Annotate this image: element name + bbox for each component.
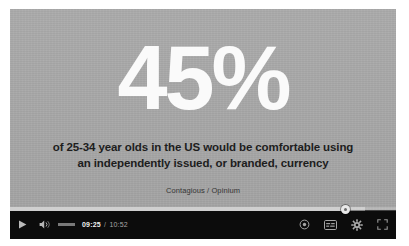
fullscreen-button[interactable] bbox=[374, 216, 391, 233]
fullscreen-icon bbox=[377, 219, 388, 230]
quality-dot-icon bbox=[299, 219, 310, 230]
page-canvas: 45% of 25-34 year olds in the US would b… bbox=[0, 0, 409, 246]
volume-button[interactable] bbox=[36, 216, 53, 233]
captions-button[interactable] bbox=[322, 216, 339, 233]
quality-button[interactable] bbox=[296, 216, 313, 233]
stat-description-line-1: of 25-34 year olds in the US would be co… bbox=[28, 140, 378, 156]
video-slide-content: 45% of 25-34 year olds in the US would b… bbox=[10, 9, 396, 207]
gear-icon bbox=[351, 219, 363, 231]
controls-right-group bbox=[296, 210, 391, 239]
subtitles-icon bbox=[324, 220, 337, 230]
time-display: 09:25 / 10:52 bbox=[82, 221, 128, 228]
stat-description-line-2: an independently issued, or branded, cur… bbox=[28, 156, 378, 172]
play-icon bbox=[17, 219, 28, 230]
current-time: 09:25 bbox=[82, 221, 101, 228]
stat-source-attribution: Contagious / Opinium bbox=[10, 186, 396, 195]
volume-icon bbox=[39, 219, 51, 230]
stat-description: of 25-34 year olds in the US would be co… bbox=[28, 140, 378, 171]
play-button[interactable] bbox=[14, 216, 31, 233]
stat-headline: 45% bbox=[10, 31, 396, 125]
controls-left-group: 09:25 / 10:52 bbox=[14, 210, 128, 239]
volume-slider[interactable] bbox=[58, 223, 75, 226]
player-control-bar[interactable]: 09:25 / 10:52 bbox=[10, 210, 396, 239]
time-separator: / bbox=[104, 221, 106, 228]
duration-time: 10:52 bbox=[109, 221, 128, 228]
settings-button[interactable] bbox=[348, 216, 365, 233]
video-player[interactable]: 45% of 25-34 year olds in the US would b… bbox=[10, 9, 396, 239]
video-frame[interactable]: 45% of 25-34 year olds in the US would b… bbox=[10, 9, 396, 239]
